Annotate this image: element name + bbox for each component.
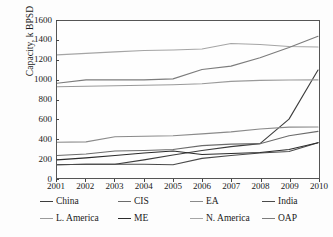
y-tick-mark [56, 60, 59, 61]
y-tick-mark [56, 139, 59, 140]
legend-label: EA [206, 196, 219, 206]
x-tick-label: 2010 [302, 181, 333, 191]
x-tick-mark [202, 179, 203, 182]
y-tick-mark [56, 159, 59, 160]
y-tick-label: 800 [22, 95, 52, 104]
chart-figure: Capacity, k BPSD 02004006008001000120014… [0, 0, 333, 237]
plot-area [56, 20, 320, 179]
y-tick-label: 1200 [22, 55, 52, 64]
legend-label: China [56, 196, 79, 206]
series-line [57, 143, 318, 165]
legend-row: L. AmericaMEN. AmericaOAP [40, 213, 322, 230]
legend-line-swatch [118, 201, 131, 202]
y-tick-label: 400 [22, 135, 52, 144]
x-tick-mark [144, 179, 145, 182]
legend-item-india[interactable]: India [262, 196, 298, 206]
legend-line-swatch [190, 218, 203, 219]
legend-item-oap[interactable]: OAP [262, 213, 297, 223]
x-tick-mark [173, 179, 174, 182]
series-line [57, 143, 318, 160]
y-axis-tick-labels: 02004006008001000120014001600 [18, 20, 52, 179]
legend-label: OAP [278, 213, 297, 223]
legend-label: CIS [134, 196, 149, 206]
legend-line-swatch [40, 201, 53, 202]
x-tick-mark [56, 179, 57, 182]
legend-line-swatch [262, 201, 275, 202]
legend-item-cis[interactable]: CIS [118, 196, 149, 206]
y-tick-mark [56, 40, 59, 41]
y-tick-label: 600 [22, 115, 52, 124]
legend-item-l-america[interactable]: L. America [40, 213, 99, 223]
series-line [57, 127, 318, 142]
legend-label: L. America [56, 213, 99, 223]
y-tick-label: 1400 [22, 35, 52, 44]
y-tick-mark [56, 100, 59, 101]
y-tick-label: 1000 [22, 75, 52, 84]
x-tick-mark [231, 179, 232, 182]
legend-line-swatch [40, 218, 53, 219]
series-line [57, 36, 318, 83]
series-line [57, 44, 318, 55]
legend-line-swatch [262, 218, 275, 219]
chart-legend: ChinaCISEAIndiaL. AmericaMEN. AmericaOAP [40, 196, 322, 232]
y-tick-mark [56, 80, 59, 81]
chart-lines [57, 21, 319, 178]
legend-item-ea[interactable]: EA [190, 196, 219, 206]
y-tick-label: 1600 [22, 16, 52, 25]
legend-line-swatch [118, 218, 131, 219]
legend-label: N. America [206, 213, 250, 223]
x-tick-mark [290, 179, 291, 182]
y-tick-mark [56, 20, 59, 21]
x-tick-mark [261, 179, 262, 182]
y-tick-label: 200 [22, 155, 52, 164]
legend-item-n-america[interactable]: N. America [190, 213, 250, 223]
series-line [57, 80, 318, 87]
legend-row: ChinaCISEAIndia [40, 196, 322, 213]
legend-item-me[interactable]: ME [118, 213, 148, 223]
legend-line-swatch [190, 201, 203, 202]
legend-label: India [278, 196, 298, 206]
legend-item-china[interactable]: China [40, 196, 79, 206]
x-tick-mark [85, 179, 86, 182]
x-tick-mark [319, 179, 320, 182]
y-tick-mark [56, 119, 59, 120]
x-tick-mark [114, 179, 115, 182]
legend-label: ME [134, 213, 148, 223]
